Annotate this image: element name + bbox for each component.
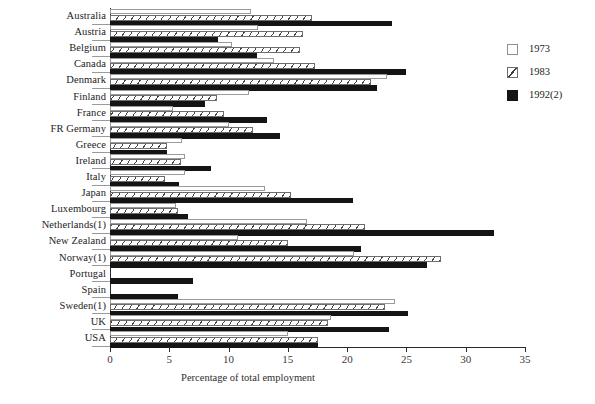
empty-square-swatch-icon	[507, 44, 518, 55]
x-tick	[466, 347, 467, 352]
bar-19922-usa	[110, 343, 318, 349]
category-label: UK	[91, 316, 106, 327]
category-label: FR Germany	[50, 123, 106, 134]
bar-1983-france	[110, 111, 224, 117]
x-axis-title: Percentage of total employment	[181, 372, 315, 383]
hatched-square-swatch-icon	[507, 67, 518, 78]
legend-item-1992: 1992(2)	[507, 88, 587, 105]
x-tick	[288, 347, 289, 352]
category-rule	[92, 346, 110, 347]
x-tick-label: 25	[401, 353, 412, 365]
chart-legend: 1973 1983 1992(2)	[507, 42, 587, 111]
category-label: Norway(1)	[59, 252, 106, 263]
x-tick-label: 20	[342, 353, 353, 365]
filled-square-swatch-icon	[507, 90, 518, 101]
bar-1983-norway	[110, 256, 441, 262]
x-tick	[110, 347, 111, 352]
legend-label-1992: 1992(2)	[529, 89, 562, 100]
x-tick-label: 5	[167, 353, 173, 365]
x-tick	[169, 347, 170, 352]
x-tick-label: 30	[460, 353, 471, 365]
bar-1983-frgermany	[110, 127, 253, 133]
category-label: Austria	[74, 26, 106, 37]
bar-1983-greece	[110, 143, 167, 149]
category-label: Ireland	[76, 155, 106, 166]
x-tick-label: 10	[223, 353, 234, 365]
bar-1983-denmark	[110, 79, 371, 85]
category-label: Italy	[86, 171, 106, 182]
bar-1983-australia	[110, 15, 312, 21]
category-label: Netherlands(1)	[42, 219, 106, 230]
legend-item-1983: 1983	[507, 65, 587, 82]
category-label: Australia	[67, 10, 106, 21]
category-label: France	[77, 107, 106, 118]
x-tick-label: 15	[282, 353, 293, 365]
bar-1983-italy	[110, 176, 165, 182]
bar-1983-netherlands	[110, 224, 365, 230]
category-label: Spain	[82, 284, 106, 295]
category-label: Sweden(1)	[60, 300, 106, 311]
category-label: Belgium	[69, 42, 106, 53]
category-label: New Zealand	[49, 235, 106, 246]
x-tick	[406, 347, 407, 352]
bar-1983-finland	[110, 95, 217, 101]
x-tick	[347, 347, 348, 352]
bar-1983-austria	[110, 31, 303, 37]
category-label: Greece	[76, 139, 106, 150]
legend-item-1973: 1973	[507, 42, 587, 59]
x-tick	[525, 347, 526, 352]
category-label: Luxembourg	[51, 203, 106, 214]
category-label: Japan	[82, 187, 106, 198]
bar-1983-uk	[110, 320, 328, 326]
legend-label-1973: 1973	[529, 43, 550, 54]
category-label: Canada	[74, 58, 106, 69]
x-tick	[229, 347, 230, 352]
legend-label-1983: 1983	[529, 66, 550, 77]
bar-1983-usa	[110, 337, 318, 343]
bar-1983-newzealand	[110, 240, 288, 246]
bar-1983-sweden	[110, 304, 385, 310]
category-label: Finland	[73, 91, 106, 102]
bar-1983-luxembourg	[110, 208, 178, 214]
category-label: Denmark	[66, 74, 106, 85]
bar-1983-canada	[110, 63, 315, 69]
chart-row: USA	[0, 331, 595, 349]
x-tick-label: 0	[107, 353, 113, 365]
x-tick-label: 35	[520, 353, 531, 365]
category-label: USA	[85, 332, 106, 343]
horizontal-bar-chart: AustraliaAustriaBelgiumCanadaDenmarkFinl…	[0, 0, 595, 404]
bar-1983-japan	[110, 192, 291, 198]
bar-1983-belgium	[110, 47, 300, 53]
category-label: Portugal	[70, 268, 106, 279]
bar-1983-ireland	[110, 159, 181, 165]
